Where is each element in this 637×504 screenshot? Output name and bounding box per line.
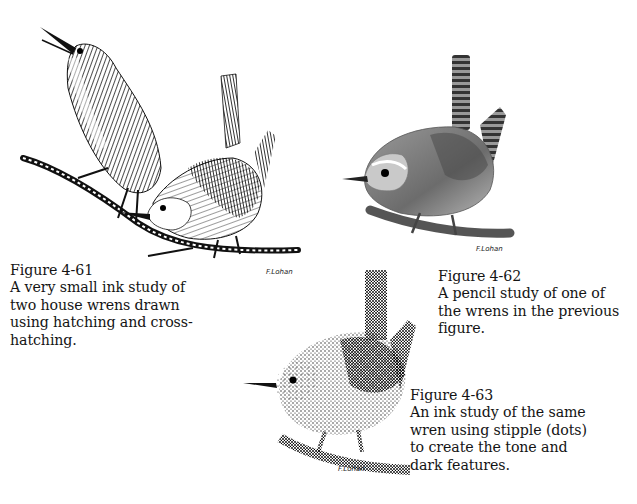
caption-line: two house wrens drawn	[10, 297, 225, 314]
caption-figure-4-61: Figure 4-61 A very small ink study of tw…	[10, 262, 225, 349]
caption-line: An ink study of the same	[410, 404, 635, 421]
figure-4-62-illustration: F.Lohan	[340, 55, 520, 255]
pencil-wren-drawing	[340, 55, 520, 255]
caption-line: wren using stipple (dots)	[410, 422, 635, 439]
figure-title: Figure 4-63	[410, 387, 635, 404]
caption-line: hatching.	[10, 332, 225, 349]
caption-line: dark features.	[410, 457, 635, 474]
caption-figure-4-63: Figure 4-63 An ink study of the same wre…	[410, 387, 635, 474]
caption-line: using hatching and cross-	[10, 314, 225, 331]
signature-4-62: F.Lohan	[476, 245, 503, 253]
caption-line: figure.	[438, 320, 637, 337]
caption-line: the wrens in the previous	[438, 303, 637, 320]
figure-4-63-illustration: F.Lohan	[240, 270, 425, 475]
stipple-wren-drawing	[240, 270, 425, 475]
caption-figure-4-62: Figure 4-62 A pencil study of one of the…	[438, 268, 637, 338]
figure-4-61-illustration: F.Lohan	[18, 18, 308, 273]
figure-title: Figure 4-61	[10, 262, 225, 279]
figure-title: Figure 4-62	[438, 268, 637, 285]
hatched-wrens-drawing	[18, 18, 308, 273]
signature-4-63: F.Lohan	[338, 465, 365, 473]
caption-line: A very small ink study of	[10, 279, 225, 296]
caption-line: A pencil study of one of	[438, 285, 637, 302]
caption-line: to create the tone and	[410, 439, 635, 456]
